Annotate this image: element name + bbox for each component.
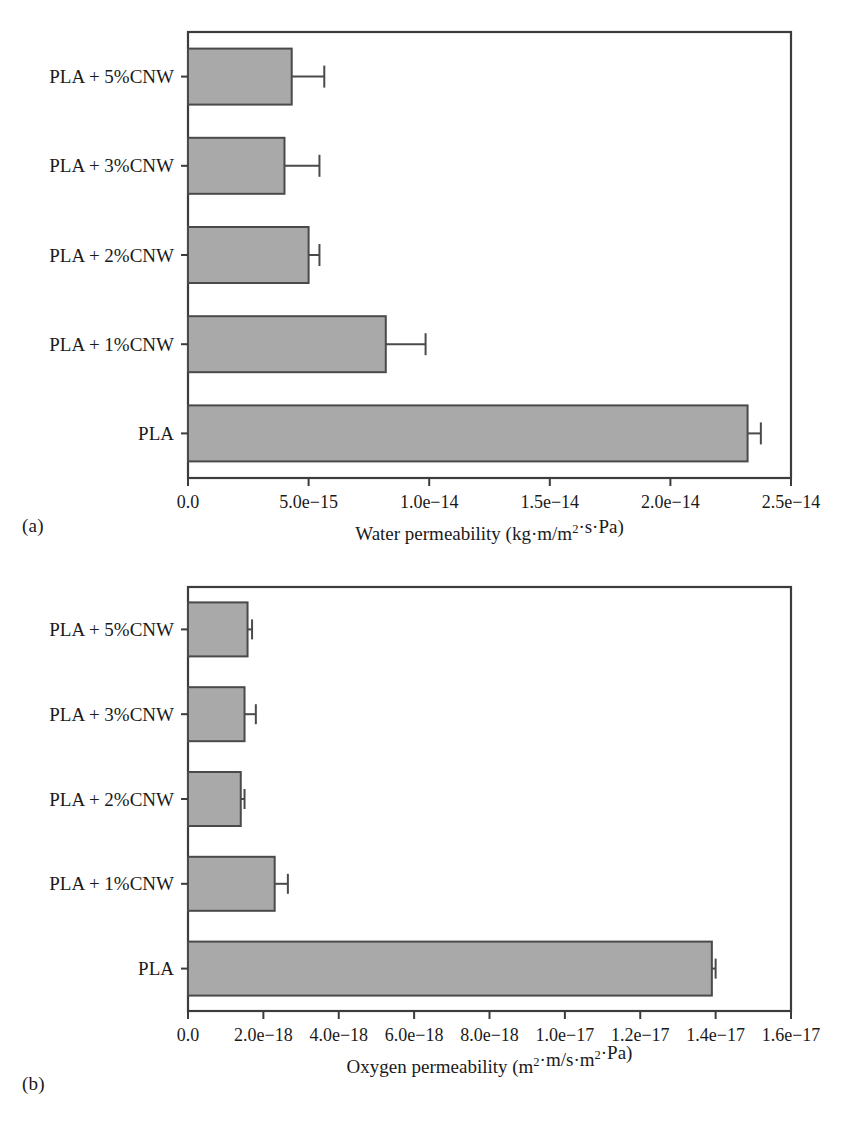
x-tick-label: 8.0e−18 — [460, 1025, 519, 1045]
y-tick-label: PLA + 2%CNW — [49, 789, 174, 810]
bar — [188, 138, 284, 194]
bar — [188, 857, 275, 911]
y-tick-label: PLA + 2%CNW — [49, 245, 174, 266]
x-tick-label: 5.0e−15 — [279, 492, 338, 512]
x-tick-label: 2.0e−18 — [234, 1025, 293, 1045]
panel-a-tag: (a) — [22, 515, 44, 537]
bar — [188, 227, 309, 283]
water-permeability-chart: PLA + 5%CNWPLA + 3%CNWPLA + 2%CNWPLA + 1… — [0, 0, 855, 561]
bar-group — [188, 405, 761, 461]
bar-group — [188, 227, 319, 283]
y-tick-label: PLA + 1%CNW — [49, 873, 174, 894]
y-tick-label: PLA — [138, 423, 174, 444]
y-tick-label: PLA + 5%CNW — [49, 66, 174, 87]
x-tick-label: 1.0e−17 — [536, 1025, 595, 1045]
panel-b-tag: (b) — [22, 1073, 45, 1095]
x-tick-label: 6.0e−18 — [385, 1025, 444, 1045]
x-tick-label: 4.0e−18 — [309, 1025, 368, 1045]
panel-b: PLA + 5%CNWPLA + 3%CNWPLA + 2%CNWPLA + 1… — [0, 555, 855, 1122]
y-tick-label: PLA + 3%CNW — [49, 155, 174, 176]
x-tick-label: 1.6e−17 — [762, 1025, 821, 1045]
bar-group — [188, 942, 716, 996]
bar — [188, 49, 292, 105]
y-tick-label: PLA + 5%CNW — [49, 619, 174, 640]
y-tick-label: PLA + 3%CNW — [49, 704, 174, 725]
x-tick-label: 1.4e−17 — [686, 1025, 745, 1045]
bar — [188, 316, 386, 372]
x-axis-title: Oxygen permeability (m2·m/s·m2·Pa) — [347, 1042, 633, 1078]
bar — [188, 405, 748, 461]
bar — [188, 942, 712, 996]
bar-group — [188, 772, 245, 826]
x-tick-label: 0.0 — [177, 1025, 200, 1045]
x-tick-label: 1.0e−14 — [400, 492, 459, 512]
bar-group — [188, 857, 288, 911]
y-tick-label: PLA + 1%CNW — [49, 334, 174, 355]
bar-group — [188, 602, 252, 656]
x-tick-label: 2.5e−14 — [762, 492, 821, 512]
x-axis-title: Water permeability (kg·m/m2·s·Pa) — [355, 516, 624, 545]
y-tick-label: PLA — [138, 958, 174, 979]
x-tick-label: 0.0 — [177, 492, 200, 512]
x-tick-label: 2.0e−14 — [641, 492, 700, 512]
figure-root: PLA + 5%CNWPLA + 3%CNWPLA + 2%CNWPLA + 1… — [0, 0, 855, 1122]
panel-a: PLA + 5%CNWPLA + 3%CNWPLA + 2%CNWPLA + 1… — [0, 0, 855, 561]
bar — [188, 687, 245, 741]
bar — [188, 772, 241, 826]
x-tick-label: 1.5e−14 — [520, 492, 579, 512]
oxygen-permeability-chart: PLA + 5%CNWPLA + 3%CNWPLA + 2%CNWPLA + 1… — [0, 555, 855, 1122]
bar — [188, 602, 248, 656]
